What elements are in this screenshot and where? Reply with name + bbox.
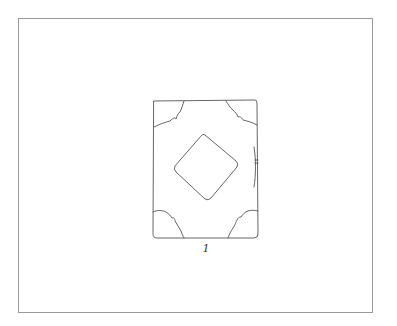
corner-ornament-bottom-left bbox=[153, 211, 184, 239]
clasp bbox=[254, 147, 256, 187]
corner-ornament-top-left bbox=[154, 101, 184, 127]
central-diamond bbox=[174, 134, 238, 200]
corner-ornament-top-right bbox=[226, 101, 257, 125]
page-number: 1 bbox=[199, 243, 213, 255]
cover-outline bbox=[153, 100, 258, 238]
corner-ornament-bottom-right bbox=[228, 210, 258, 238]
book-cover-drawing bbox=[0, 0, 397, 326]
figure-canvas: 1 bbox=[0, 0, 397, 326]
